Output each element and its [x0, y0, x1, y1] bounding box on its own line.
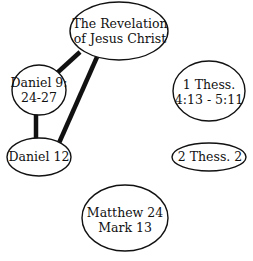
node-revelation-line1: The Revelation — [72, 16, 167, 31]
node-daniel12: Daniel 12 — [7, 138, 71, 176]
edge-revelation-daniel12 — [59, 57, 97, 143]
relationship-diagram: The Revelation of Jesus Christ Daniel 9:… — [0, 0, 253, 261]
node-daniel9-line1: Daniel 9: — [10, 75, 67, 90]
edge-revelation-daniel9 — [57, 52, 80, 73]
node-thess1-line2: 4:13 - 5:11 — [175, 92, 243, 107]
node-thess1-line1: 1 Thess. — [183, 77, 236, 92]
node-matthew: Matthew 24 Mark 13 — [82, 185, 168, 251]
node-thess1: 1 Thess. 4:13 - 5:11 — [173, 61, 245, 121]
node-daniel9: Daniel 9: 24-27 — [10, 65, 67, 115]
node-daniel12-line1: Daniel 12 — [9, 149, 70, 164]
node-thess2: 2 Thess. 2 — [172, 143, 246, 171]
node-revelation-line2: of Jesus Christ — [74, 31, 166, 46]
node-revelation: The Revelation of Jesus Christ — [70, 2, 168, 60]
node-matthew-line2: Mark 13 — [98, 220, 152, 235]
node-daniel9-line2: 24-27 — [21, 90, 57, 105]
node-matthew-line1: Matthew 24 — [87, 205, 163, 220]
node-thess2-line1: 2 Thess. 2 — [178, 149, 242, 164]
